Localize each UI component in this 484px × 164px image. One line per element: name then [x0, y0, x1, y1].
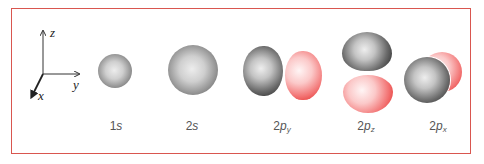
z-axis-label: z — [50, 25, 55, 41]
label-1s: 1s — [96, 119, 136, 133]
orbital-2s — [168, 45, 218, 95]
orbital-2py-lobe-negative — [285, 51, 322, 100]
label-2s: 2s — [172, 119, 212, 133]
label-2px: 2px — [418, 119, 458, 134]
label-2pz: 2pz — [346, 119, 386, 134]
y-axis-label: y — [73, 77, 79, 93]
orbital-2pz-lobe-positive — [342, 32, 392, 71]
orbital-2px-lobe-positive — [404, 57, 450, 103]
orbital-2py-lobe-positive — [243, 46, 283, 96]
x-axis-label: x — [38, 88, 44, 104]
label-2py: 2py — [262, 119, 302, 134]
orbital-1s — [98, 54, 132, 88]
